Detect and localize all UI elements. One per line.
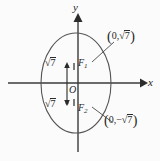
focus-upper-coordinates: (0,√7) <box>107 30 135 44</box>
y-axis-arrow-icon <box>74 13 83 22</box>
upper-focal-distance-label: √7 <box>45 57 56 69</box>
lower-focal-distance-label: √7 <box>45 98 56 110</box>
focus-upper-leader-line <box>92 42 114 62</box>
focus-upper-point <box>66 65 69 68</box>
radical-sign-icon: √7 <box>45 98 56 110</box>
x-axis-label: x <box>148 77 153 88</box>
radical-sign-icon: √7 <box>119 30 130 42</box>
focus-lower-point <box>66 102 69 105</box>
paren-close: ) <box>130 29 135 44</box>
origin-label: O <box>69 85 76 95</box>
lower-radicand: 7 <box>50 98 56 110</box>
focus-lower-coordinates: (0,−√7) <box>104 114 137 128</box>
radical-sign-icon: √7 <box>45 57 56 69</box>
x-axis-arrow-icon <box>140 79 148 88</box>
focus-upper-label: F1 <box>78 58 88 70</box>
y-axis-label: y <box>73 2 78 13</box>
upper-radicand: 7 <box>50 57 56 69</box>
radical-sign-icon: √7 <box>122 114 133 126</box>
focus-lower-subscript: 2 <box>84 107 88 115</box>
focus-upper-subscript: 1 <box>84 62 88 70</box>
ellipse-foci-figure: y x O F1 F2 √7 √7 (0,√7) (0,−√7) <box>0 0 160 161</box>
paren-close: ) <box>133 113 138 128</box>
figure-canvas <box>0 0 160 161</box>
focus-lower-label: F2 <box>78 103 88 115</box>
